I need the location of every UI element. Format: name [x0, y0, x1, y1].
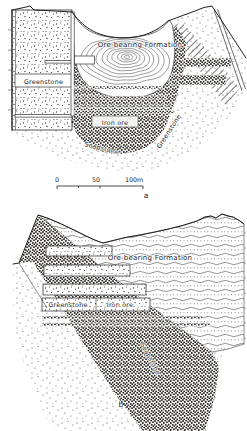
formation-label-b: Ore-bearing Formation [108, 254, 193, 262]
panel-b: Ore-bearing Formation Greenstone Iron or… [0, 200, 247, 431]
shaft-left [71, 12, 74, 116]
mine-level-right [183, 58, 231, 67]
greenstone-block-left [12, 10, 72, 130]
cross-sections-svg: Ore-bearing Formation Greenstone Iron or… [0, 0, 247, 431]
caption-a: a [144, 191, 149, 200]
mine-level-strip [43, 284, 146, 295]
caption-b: b [119, 400, 124, 409]
mine-level-right [169, 75, 226, 85]
mine-level [42, 316, 203, 319]
figure-geological-cross-sections: Ore-bearing Formation Greenstone Iron or… [0, 0, 247, 431]
greenstone-label-b: Greenstone [48, 301, 87, 309]
scale-100m: 100m [125, 176, 143, 183]
scale-0: 0 [55, 176, 59, 183]
mine-level [75, 111, 175, 114]
scale-50: 50 [92, 176, 100, 183]
formation-label-a: Ore-bearing Formation [98, 41, 183, 49]
mine-level [75, 105, 171, 108]
panel-a: Ore-bearing Formation Greenstone Iron or… [0, 0, 247, 200]
iron-ore-label-b: Iron ore [107, 301, 133, 309]
mine-level [75, 56, 95, 64]
iron-ore-label-a: Iron ore [102, 119, 128, 127]
mine-level-strip [44, 265, 130, 276]
mine-level [15, 115, 72, 118]
mine-level [75, 86, 163, 89]
mine-level [45, 61, 72, 64]
left-margin-a [0, 10, 11, 182]
mine-level [75, 96, 167, 99]
greenstone-left-label-a: Greenstone [24, 78, 63, 86]
mine-level [42, 323, 210, 326]
mine-level-strip [46, 246, 112, 256]
